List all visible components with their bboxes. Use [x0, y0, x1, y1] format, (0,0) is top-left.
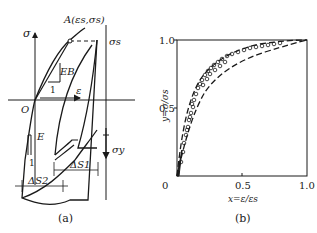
x-axis-label: x=ε/εs — [228, 194, 258, 204]
plot-frame — [177, 40, 307, 176]
upper-bound-curve — [177, 40, 307, 176]
sigma-y-label: σy — [112, 144, 125, 155]
delta-s1-label: ΔS1 — [69, 159, 90, 170]
point-a-label: A(εs,σs) — [63, 14, 105, 25]
eb-slope-triangle — [48, 63, 60, 82]
data-markers — [179, 41, 282, 164]
x-tick-label-10: 1.0 — [299, 180, 315, 191]
sigma-s-label: σs — [109, 36, 121, 47]
delta-s2-label: ΔS2 — [27, 175, 48, 186]
y-axis-label: y=σ/σs — [160, 89, 170, 123]
slope-one-lower: 1 — [29, 158, 35, 168]
eb-label: EB — [59, 66, 75, 77]
epsilon-axis-label: ε — [76, 85, 81, 96]
origin-label: O — [21, 104, 29, 115]
lower-bound-curve — [177, 40, 307, 176]
inner-loop — [55, 140, 78, 155]
caption-b: (b) — [235, 212, 251, 225]
slope-one-upper: 1 — [50, 85, 56, 95]
x-tick-label-05: 0.5 — [235, 180, 251, 191]
e-label: E — [36, 131, 45, 142]
caption-a: (a) — [58, 212, 73, 225]
x-tick-label-0: 0 — [162, 180, 168, 191]
figure-canvas: A(εs,σs) σ ε O σs σy EB 1 E 1 ΔS1 ΔS2 (a… — [0, 0, 317, 233]
y-tick-label-10: 1.0 — [159, 35, 175, 46]
e-slope-triangle — [28, 135, 31, 155]
sigma-axis-label: σ — [23, 27, 31, 40]
point-a-marker — [68, 39, 72, 43]
panel-b — [174, 40, 307, 176]
